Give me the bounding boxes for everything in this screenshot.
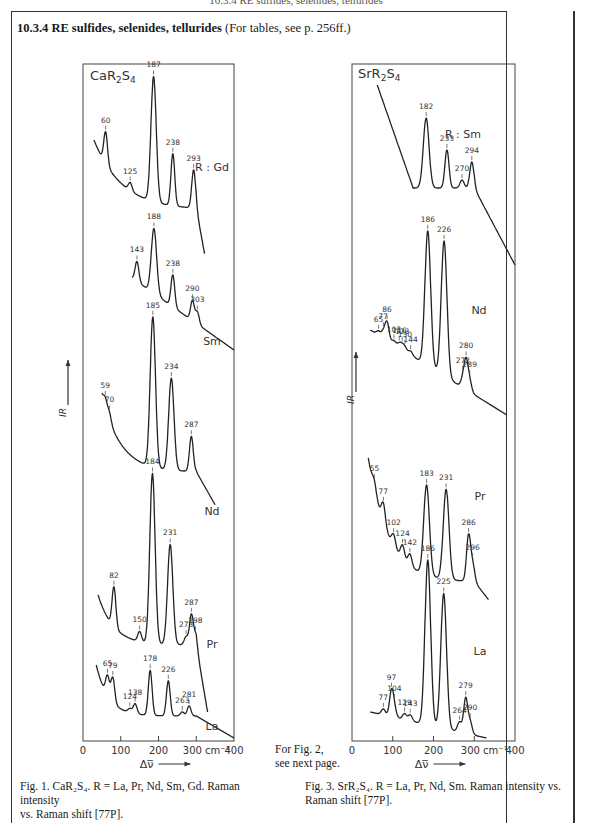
x-axis-label: Δν̅ bbox=[140, 758, 154, 771]
peak-label: 82 bbox=[109, 571, 119, 580]
x-tick-label: 200 bbox=[424, 745, 443, 756]
spectrum-line bbox=[94, 77, 205, 254]
peak-label: 294 bbox=[465, 146, 480, 155]
series-label-la: La bbox=[206, 720, 219, 733]
peak-label: 270 bbox=[455, 164, 470, 173]
fig1-caption-line1: Fig. 1. CaR₂S₄. R = La, Pr, Nd, Sm, Gd. … bbox=[20, 779, 282, 807]
peak-label: 102 bbox=[386, 518, 401, 527]
peak-label: 280 bbox=[459, 341, 474, 350]
fig3-caption-line2: Raman shift [77P]. bbox=[305, 793, 570, 807]
spectrum-line bbox=[368, 458, 488, 600]
peak-label: 77 bbox=[379, 693, 389, 702]
peak-label: 290 bbox=[185, 284, 200, 293]
spectrum-line bbox=[132, 229, 234, 351]
spectrum-line bbox=[370, 231, 507, 415]
spectrum-line bbox=[98, 473, 208, 712]
peak-label: 225 bbox=[437, 577, 452, 586]
y-axis-label: IR bbox=[58, 408, 68, 417]
y-axis-arrowhead bbox=[66, 360, 71, 366]
plot-frame bbox=[352, 64, 515, 741]
peak-label: 86 bbox=[382, 305, 392, 314]
peak-label: 281 bbox=[182, 690, 197, 699]
peak-label: 187 bbox=[146, 60, 161, 69]
x-tick-label: 100 bbox=[383, 745, 402, 756]
compound-label: CaR2S4 bbox=[90, 68, 136, 85]
peak-label: 188 bbox=[147, 212, 162, 221]
spectrum-sm: 182233270294R : Sm bbox=[377, 85, 515, 265]
peak-label: 77 bbox=[379, 487, 389, 496]
series-label-sm: Sm bbox=[203, 335, 221, 348]
series-label-sm: R : Sm bbox=[445, 128, 481, 141]
peak-label: 182 bbox=[419, 102, 434, 111]
x-tick-label: 400 bbox=[505, 745, 524, 756]
spectrum-nd: 657786103116123130144186226272280289Nd bbox=[370, 215, 507, 415]
series-label-pr: Pr bbox=[207, 638, 218, 651]
y-axis-label: IR bbox=[346, 395, 356, 404]
spectrum-pr: 5577102124142183231286296Pr bbox=[368, 458, 488, 600]
peak-label: 186 bbox=[421, 215, 436, 224]
x-axis-label: Δν̅ bbox=[415, 758, 429, 771]
peak-label: 124 bbox=[395, 529, 410, 538]
spectrum-nd: 5970185234287Nd bbox=[100, 301, 219, 518]
chart-fig1: CaR2S40100200300 cm⁻¹400Δν̅IR60125187238… bbox=[58, 60, 244, 771]
peak-label: 104 bbox=[387, 684, 402, 693]
series-label-nd: Nd bbox=[204, 505, 219, 518]
peak-label: 60 bbox=[101, 116, 111, 125]
x-axis-arrowhead bbox=[460, 762, 466, 767]
x-axis-arrowhead bbox=[185, 762, 191, 767]
fig3-caption: Fig. 3. SrR₂S₄. R = La, Pr, Nd, Sm. Rama… bbox=[305, 779, 570, 807]
chart-fig3: SrR2S40100200300 cm⁻¹400Δν̅IR18223327029… bbox=[346, 64, 525, 771]
fig1-caption: Fig. 1. CaR₂S₄. R = La, Pr, Nd, Sm, Gd. … bbox=[20, 779, 282, 821]
x-tick-label: 300 cm⁻¹ bbox=[461, 745, 508, 756]
note-line-2: see next page. bbox=[275, 756, 340, 770]
spectrum-la: 7797104129143186225264279290La bbox=[370, 544, 486, 738]
series-label-gd: R : Gd bbox=[195, 161, 229, 174]
peak-label: 231 bbox=[163, 528, 178, 537]
peak-label: 138 bbox=[128, 688, 143, 697]
peak-label: 97 bbox=[387, 673, 397, 682]
x-tick-label: 300 cm⁻¹ bbox=[183, 745, 230, 756]
series-label-la: La bbox=[474, 645, 487, 658]
peak-label: 142 bbox=[403, 538, 418, 547]
x-tick-label: 0 bbox=[349, 745, 355, 756]
peak-label: 143 bbox=[403, 699, 418, 708]
peak-label: 183 bbox=[419, 469, 434, 478]
compound-label: SrR2S4 bbox=[358, 66, 401, 83]
peak-label: 226 bbox=[161, 665, 176, 674]
peak-label: 184 bbox=[145, 457, 160, 466]
series-label-pr: Pr bbox=[475, 490, 486, 503]
peak-label: 290 bbox=[463, 703, 478, 712]
x-tick-label: 0 bbox=[80, 745, 86, 756]
peak-label: 226 bbox=[437, 225, 452, 234]
fig3-caption-line1: Fig. 3. SrR₂S₄. R = La, Pr, Nd, Sm. Rama… bbox=[305, 779, 570, 793]
peak-label: 143 bbox=[130, 245, 145, 254]
spectrum-la: 6579124138178226263281La bbox=[96, 654, 234, 738]
peak-label: 238 bbox=[166, 138, 181, 147]
peak-label: 150 bbox=[132, 615, 147, 624]
peak-label: 79 bbox=[108, 661, 118, 670]
spectrum-gd: 60125187238293R : Gd bbox=[94, 60, 229, 253]
peak-label: 70 bbox=[105, 395, 115, 404]
peak-label: 234 bbox=[164, 362, 179, 371]
peak-label: 303 bbox=[190, 295, 205, 304]
spectrum-line bbox=[377, 85, 515, 265]
peak-label: 144 bbox=[404, 335, 419, 344]
x-tick-label: 100 bbox=[111, 745, 130, 756]
peak-label: 125 bbox=[123, 167, 138, 176]
fig1-caption-line2: vs. Raman shift [77P]. bbox=[20, 807, 282, 821]
fig2-reference-note: For Fig. 2, see next page. bbox=[275, 742, 340, 770]
peak-label: 287 bbox=[184, 420, 199, 429]
peak-label: 298 bbox=[188, 616, 203, 625]
series-label-nd: Nd bbox=[471, 304, 486, 317]
peak-label: 296 bbox=[465, 543, 480, 552]
spectrum-sm: 143188238290303Sm bbox=[130, 212, 234, 350]
peak-label: 231 bbox=[439, 473, 454, 482]
spectrum-pr: 82150184231273287298Pr bbox=[98, 457, 218, 712]
figures-canvas: CaR2S40100200300 cm⁻¹400Δν̅IR60125187238… bbox=[0, 0, 592, 823]
peak-label: 59 bbox=[100, 381, 110, 390]
x-tick-label: 200 bbox=[149, 745, 168, 756]
peak-label: 287 bbox=[184, 598, 199, 607]
y-axis-arrowhead bbox=[354, 352, 359, 358]
peak-label: 185 bbox=[146, 301, 161, 310]
peak-label: 279 bbox=[459, 681, 474, 690]
